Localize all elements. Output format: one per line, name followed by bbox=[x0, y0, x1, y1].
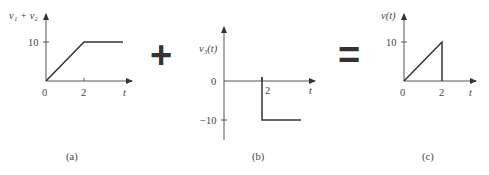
panel-c: v(t) 10 0 2 t (c) bbox=[381, 10, 476, 163]
ytick-label-neg10: −10 bbox=[200, 115, 216, 126]
figure-canvas: v₁ + v₂ 10 0 2 t (a) + v₃(t) 0 −10 2 t (… bbox=[0, 0, 489, 175]
signal-line bbox=[262, 77, 301, 120]
xtick-label-2: 2 bbox=[81, 87, 86, 98]
x-axis-label: t bbox=[309, 85, 313, 96]
caption-a: (a) bbox=[66, 151, 78, 163]
plus-operator: + bbox=[150, 34, 172, 76]
y-axis-label: v(t) bbox=[381, 10, 396, 22]
signal-line bbox=[404, 42, 442, 81]
ytick-label-0: 0 bbox=[211, 76, 216, 87]
xtick-label-2: 2 bbox=[265, 85, 270, 96]
x-axis-label: t bbox=[469, 87, 473, 98]
y-axis-label: v₁ + v₂ bbox=[9, 10, 38, 21]
y-axis-label: v₃(t) bbox=[199, 43, 218, 55]
panel-a: v₁ + v₂ 10 0 2 t (a) bbox=[9, 10, 132, 163]
caption-b: (b) bbox=[252, 151, 265, 163]
ytick-label-10: 10 bbox=[386, 37, 397, 48]
xtick-label-0: 0 bbox=[42, 87, 47, 98]
caption-c: (c) bbox=[422, 151, 434, 163]
xtick-label-2: 2 bbox=[439, 87, 444, 98]
xtick-label-0: 0 bbox=[400, 87, 405, 98]
signal-line bbox=[46, 42, 123, 81]
panel-b: v₃(t) 0 −10 2 t (b) bbox=[199, 27, 315, 163]
equals-operator: = bbox=[338, 34, 360, 76]
ytick-label-10: 10 bbox=[28, 37, 39, 48]
x-axis-label: t bbox=[123, 87, 127, 98]
